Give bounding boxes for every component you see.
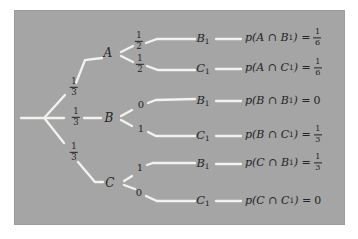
leaf-subscript: 1 bbox=[205, 67, 210, 76]
probability-expression: p(B ∩ B1) = 0 bbox=[245, 94, 321, 107]
result-numerator: 1 bbox=[314, 125, 322, 135]
fork-A-lines bbox=[121, 39, 195, 70]
node-C: C bbox=[105, 176, 114, 190]
prob-numerator: 1 bbox=[136, 54, 144, 65]
figure-panel: 1 3 1 3 1 3 A B C 1 2 1 2 0 1 1 0 B1 bbox=[14, 10, 345, 225]
prob-numerator: 1 bbox=[72, 107, 80, 118]
leaf-subscript: 1 bbox=[205, 99, 210, 108]
leaf-subscript: 1 bbox=[205, 37, 210, 46]
leaf-letter: C bbox=[196, 128, 205, 142]
prob-denominator: 2 bbox=[136, 42, 141, 52]
expression-text: ) = bbox=[294, 129, 311, 142]
leaf-letter: C bbox=[196, 193, 205, 207]
result-fraction: 13 bbox=[314, 125, 322, 144]
expression-text: ) = bbox=[294, 94, 311, 107]
leaf-subscript: 1 bbox=[205, 162, 210, 171]
leaf-subscript: 1 bbox=[205, 134, 210, 143]
expression-text: p(C ∩ C bbox=[245, 194, 289, 207]
leaf-label: B1 bbox=[196, 31, 209, 46]
result-denominator: 6 bbox=[315, 69, 320, 78]
fork-C-lines bbox=[124, 163, 195, 201]
expression-text: p(C ∩ B bbox=[245, 157, 289, 170]
prob-C-to-C1: 0 bbox=[136, 188, 142, 198]
prob-A-to-B1: 1 2 bbox=[135, 31, 143, 51]
expression-text: ) = bbox=[294, 62, 311, 75]
expression-text: p(A ∩ C bbox=[245, 62, 289, 75]
leaf-connector-dashes bbox=[216, 39, 241, 201]
expression-text: ) = bbox=[294, 157, 311, 170]
node-A: A bbox=[104, 46, 113, 60]
result-denominator: 6 bbox=[315, 39, 320, 48]
probability-expression: p(C ∩ B1) = 13 bbox=[245, 153, 322, 172]
prob-C-to-B1: 1 bbox=[137, 163, 143, 173]
result-denominator: 3 bbox=[315, 164, 320, 173]
leaf-label: B1 bbox=[196, 156, 209, 171]
prob-root-to-A: 1 3 bbox=[70, 77, 78, 97]
probability-expression: p(B ∩ C1) = 13 bbox=[245, 125, 322, 144]
node-B: B bbox=[104, 111, 113, 125]
probability-expression: p(A ∩ B1) = 16 bbox=[245, 28, 321, 47]
probability-expression: p(C ∩ C1) = 0 bbox=[245, 194, 321, 207]
result-value: 0 bbox=[314, 94, 321, 107]
prob-B-to-B1: 0 bbox=[138, 100, 144, 110]
expression-text: p(B ∩ B bbox=[245, 94, 289, 107]
result-value: 0 bbox=[314, 194, 321, 207]
prob-denominator: 3 bbox=[73, 118, 78, 128]
probability-expression: p(A ∩ C1) = 16 bbox=[245, 58, 322, 77]
prob-B-to-C1: 1 bbox=[138, 124, 144, 134]
result-fraction: 16 bbox=[314, 58, 322, 77]
result-numerator: 1 bbox=[313, 28, 321, 38]
expression-text: ) = bbox=[294, 194, 311, 207]
leaf-label: B1 bbox=[196, 93, 209, 108]
fork-B-lines bbox=[121, 99, 195, 136]
prob-denominator: 2 bbox=[137, 65, 142, 75]
leaf-letter: C bbox=[196, 61, 205, 75]
prob-numerator: 1 bbox=[70, 77, 78, 88]
expression-text: p(A ∩ B bbox=[245, 32, 289, 45]
prob-A-to-C1: 1 2 bbox=[136, 54, 144, 74]
result-numerator: 1 bbox=[314, 58, 322, 68]
prob-denominator: 3 bbox=[71, 153, 76, 163]
expression-text: ) = bbox=[293, 32, 310, 45]
leaf-label: C1 bbox=[196, 61, 210, 76]
result-numerator: 1 bbox=[314, 153, 322, 163]
root-branch-lines bbox=[21, 58, 103, 182]
prob-numerator: 1 bbox=[135, 31, 143, 42]
prob-denominator: 3 bbox=[71, 88, 76, 98]
leaf-subscript: 1 bbox=[205, 199, 210, 208]
prob-root-to-B: 1 3 bbox=[72, 107, 80, 127]
prob-numerator: 1 bbox=[70, 142, 78, 153]
result-denominator: 3 bbox=[315, 136, 320, 145]
result-fraction: 13 bbox=[314, 153, 322, 172]
prob-root-to-C: 1 3 bbox=[70, 142, 78, 162]
expression-text: p(B ∩ C bbox=[245, 129, 289, 142]
result-fraction: 16 bbox=[313, 28, 321, 47]
leaf-label: C1 bbox=[196, 128, 210, 143]
probability-tree-figure: 1 3 1 3 1 3 A B C 1 2 1 2 0 1 1 0 B1 bbox=[0, 0, 358, 239]
leaf-label: C1 bbox=[196, 193, 210, 208]
